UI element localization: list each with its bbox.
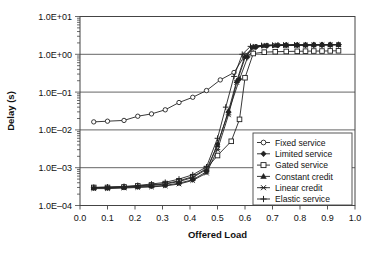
data-point-marker [303,49,308,54]
x-tick-label: 0.3 [156,213,169,223]
data-point-marker [122,118,126,122]
y-tick-label: 1.0E–04 [38,201,72,211]
y-tick-label: 1.0E+01 [38,12,72,22]
x-tick-label: 0.9 [321,213,334,223]
legend-marker [261,163,266,168]
data-point-marker [229,139,234,144]
legend: Fixed serviceLimited serviceGated servic… [253,133,352,205]
data-point-marker [136,114,140,118]
y-tick-label: 1.0E+00 [38,50,72,60]
data-point-marker [243,75,248,80]
x-axis-title: Offered Load [188,229,247,240]
data-point-marker [92,120,96,124]
legend-marker [261,140,266,145]
data-point-marker [105,119,109,123]
legend-label: Linear credit [275,183,323,193]
x-tick-label: 0.7 [266,213,279,223]
data-point-marker [262,50,267,55]
x-tick-label: 0.6 [239,213,252,223]
data-point-marker [336,48,341,53]
data-point-marker [149,112,153,116]
chart-container: 1.0E–041.0E–031.0E–021.0E–011.0E+001.0E+… [0,0,377,261]
legend-label: Gated service [275,160,328,170]
data-point-marker [191,95,195,99]
x-tick-label: 0.1 [101,213,114,223]
legend-label: Elastic service [275,194,330,204]
data-point-marker [320,49,325,54]
data-point-marker [284,49,289,54]
x-tick-label: 0.4 [184,213,197,223]
data-point-marker [251,51,256,56]
x-tick-label: 1.0 [349,213,362,223]
data-point-marker [177,100,181,104]
legend-label: Limited service [275,149,333,159]
data-point-marker [295,49,300,54]
data-point-marker [237,117,242,122]
y-tick-label: 1.0E–02 [38,125,72,135]
data-point-marker [204,88,208,92]
data-point-marker [163,108,167,112]
data-point-marker [273,49,278,54]
legend-label: Constant credit [275,172,333,182]
data-point-marker [328,49,333,54]
legend-label: Fixed service [275,138,326,148]
x-tick-label: 0.5 [211,213,224,223]
data-point-marker [218,78,222,82]
x-tick-label: 0.2 [129,213,142,223]
data-point-marker [311,49,316,54]
x-tick-label: 0.8 [294,213,307,223]
delay-vs-offered-load-chart: 1.0E–041.0E–031.0E–021.0E–011.0E+001.0E+… [0,0,377,261]
y-tick-label: 1.0E–01 [38,88,72,98]
y-axis-title: Delay (s) [5,91,16,131]
x-tick-label: 0.0 [74,213,87,223]
y-tick-label: 1.0E–03 [38,163,72,173]
